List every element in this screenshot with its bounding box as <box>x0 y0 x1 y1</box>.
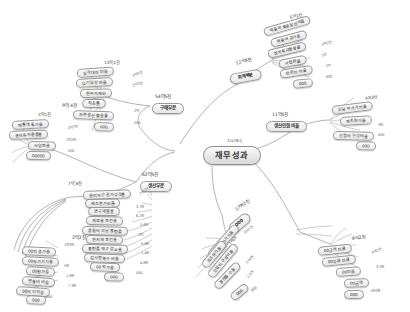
leaf-value-s3: 000 <box>68 150 75 154</box>
branch-node-accounting[interactable]: 회계부문 <box>229 69 262 85</box>
leaf-value-pr7: 1.4천 <box>141 252 149 256</box>
leaf-value-e4: 1천5백 <box>370 290 380 294</box>
leaf-value-q2: 1억2천 <box>246 255 256 265</box>
leaf-node-h4[interactable]: 000 <box>356 141 376 151</box>
leaf-node-pr2[interactable]: 연구개발율 <box>88 207 120 216</box>
leaf-node-s3[interactable]: 00000 <box>26 151 51 161</box>
leaf-value-s0: 3억1천 <box>38 113 51 117</box>
leaf-value-a3: 3천 <box>322 54 328 59</box>
leaf-value-p4: 2억 <box>134 110 139 114</box>
leaf-node-s1[interactable]: 설비투자활용률 <box>9 130 49 141</box>
root-node[interactable]: 재무성과 <box>203 146 261 165</box>
leaf-node-pr8[interactable]: 00 부가율 <box>90 262 120 273</box>
branch-value-etc: 9억2천 <box>352 235 366 241</box>
leaf-value-pr3: 6.2천 <box>136 215 144 219</box>
leaf-value-pr9: 000 <box>136 272 143 276</box>
leaf-node-e1[interactable]: 00인원 비율 <box>322 254 357 267</box>
leaf-value-h3: 3천 <box>378 124 383 128</box>
branch-value-sales: 9억 4천 <box>62 104 77 109</box>
leaf-node-p5[interactable]: 000 <box>94 122 114 132</box>
leaf-value-p2: 2억7천 <box>132 82 143 89</box>
leaf-value-p1: 4억3천 <box>132 71 143 78</box>
leaf-node-pr3[interactable]: 재료율 회전율 <box>86 216 123 226</box>
leaf-value-a5: 000 <box>326 75 333 79</box>
leaf-value-e1: 4억2천 <box>371 248 382 255</box>
leaf-value-p0: 13억3천 <box>104 61 120 65</box>
leaf-value-p5: 000 <box>134 122 141 126</box>
leaf-node-p2[interactable]: 원부자재비 <box>80 88 112 98</box>
leaf-node-h2[interactable]: 제조원가율 <box>340 115 372 126</box>
leaf-node-pr9[interactable]: 000 <box>104 272 124 282</box>
branch-node-purchasing[interactable]: 구매부문 <box>152 103 184 114</box>
leaf-value-pr0b: 7억 8천 <box>68 182 82 186</box>
leaf-value-q4: 000 <box>251 286 258 293</box>
leaf-value-pr4: 5.6천 <box>140 224 148 228</box>
leaf-value-c0: 1억3천 <box>64 244 74 248</box>
leaf-node-s2[interactable]: 사업화율 <box>28 141 56 151</box>
leaf-node-a5[interactable]: 000 <box>293 78 313 89</box>
leaf-value-c2: 5천 <box>64 265 69 269</box>
leaf-value-c4: 7.3천 <box>68 285 76 289</box>
leaf-node-q4[interactable]: 000 <box>229 283 250 303</box>
leaf-node-p3[interactable]: 직송률 <box>82 99 106 108</box>
leaf-node-e2[interactable]: 00비율 <box>336 266 361 277</box>
branch-value-purchasing: 54억5천 <box>155 95 171 100</box>
branch-value-quality: 17억2천 <box>235 199 251 212</box>
mindmap-canvas: 324억6십 재무성과 54억5천 구매부문 13억3천 실적대비 비율 4억3… <box>0 0 410 312</box>
leaf-value-pr8: 4.8천 <box>140 262 148 266</box>
leaf-value-e2: 3.5천 <box>376 266 384 270</box>
leaf-node-p4[interactable]: 자주생산 활용률 <box>73 110 114 121</box>
branch-value-hr: 11억5천 <box>272 113 288 118</box>
leaf-value-a2: 4억2천 <box>322 41 333 47</box>
leaf-value-c5: 000 <box>46 296 53 300</box>
leaf-node-e4[interactable]: 000 <box>344 290 364 299</box>
leaf-node-e3[interactable]: 00금액 <box>344 278 369 288</box>
branch-node-hr[interactable]: 생산인원 비율 <box>266 121 307 132</box>
leaf-value-c3: 1.9천 <box>66 275 74 279</box>
leaf-value-h0: 4억3천 <box>365 95 378 101</box>
leaf-value-a4: 1억 <box>326 64 332 69</box>
leaf-value-h4: 000 <box>378 134 385 138</box>
leaf-value-pr5: 2억 <box>138 234 143 238</box>
leaf-value-q3: 1.9천 <box>247 271 255 279</box>
leaf-value-pr2: 3.7천 <box>136 206 144 210</box>
leaf-node-p1[interactable]: 납기일정 비율 <box>76 77 113 88</box>
root-value: 324억6십 <box>227 140 242 144</box>
leaf-value-s2: 1억2천 <box>66 139 76 143</box>
leaf-value-pr6: 9.8천 <box>141 243 149 247</box>
branch-value-production: 62억5천 <box>142 173 158 178</box>
leaf-value-s1: 2억7천 <box>68 126 79 131</box>
leaf-node-s0[interactable]: 매출액 증가율 <box>12 119 49 130</box>
branch-value-cost: 2억2천 <box>72 236 85 241</box>
branch-value-accounting: 12억4천 <box>235 58 252 67</box>
leaf-node-h3[interactable]: 간접비 구성비율 <box>333 131 374 141</box>
leaf-value-q0: 6억5천 <box>244 226 254 235</box>
leaf-node-c5[interactable]: 000 <box>26 295 46 305</box>
leaf-node-c1[interactable]: 00부가가치율 <box>22 256 59 267</box>
leaf-node-h0[interactable]: 인당 부가가치율 <box>331 101 372 115</box>
